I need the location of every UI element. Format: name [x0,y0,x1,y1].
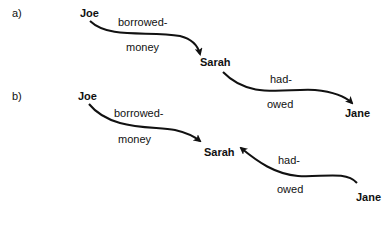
edge-b1-label-top: borrowed- [114,108,164,119]
node-b-jane: Jane [356,192,381,203]
edge-a1-label-top: borrowed- [118,17,168,28]
edge-b2-label-top: had- [278,155,300,166]
edge-a1-label-bottom: money [126,42,159,53]
node-a-joe: Joe [80,8,99,19]
edge-b2-label-bottom: owed [277,184,303,195]
diagram-b-label: b) [12,91,22,102]
edge-a2-label-top: had- [270,74,292,85]
edge-a2-label-bottom: owed [267,99,293,110]
diagram-arrows [0,0,390,225]
node-b-joe: Joe [78,91,97,102]
node-a-sarah: Sarah [200,57,231,68]
node-a-jane: Jane [345,108,370,119]
node-b-sarah: Sarah [204,147,235,158]
edge-b1-label-bottom: money [118,134,151,145]
diagram-a-label: a) [12,8,22,19]
